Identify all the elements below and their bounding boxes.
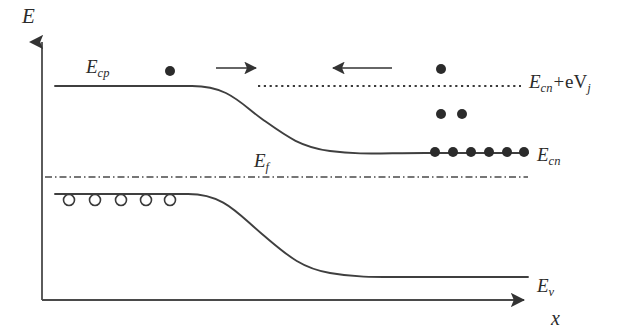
y-axis-label: E <box>22 6 35 27</box>
conduction-band-n-label: Ecn <box>537 145 561 167</box>
electron-dot <box>457 109 467 119</box>
x-axis-label: x <box>551 308 560 328</box>
bias-reference-label: Ecn+eVj <box>529 72 591 94</box>
band-diagram-figure: E Ecp Ecn+eVj Ef Ecn Ev x <box>0 0 635 336</box>
valence-band-label: Ev <box>537 276 554 298</box>
fermi-level-label: Ef <box>254 151 269 173</box>
electron-dot <box>519 147 529 157</box>
electron-dot <box>430 147 440 157</box>
hole-carriers <box>64 195 176 206</box>
conduction-band-p-label: Ecp <box>86 57 110 79</box>
hole-circle <box>90 195 101 206</box>
hole-circle <box>165 195 176 206</box>
valence-band-curve <box>55 194 528 277</box>
electron-dot <box>436 109 446 119</box>
conduction-band-curve <box>55 86 528 154</box>
electron-dot <box>466 147 476 157</box>
electron-dot <box>436 64 446 74</box>
electron-dot <box>165 66 175 76</box>
hole-circle <box>141 195 152 206</box>
hole-circle <box>64 195 75 206</box>
hole-circle <box>116 195 127 206</box>
electron-dot <box>448 147 458 157</box>
axis-group <box>42 42 524 300</box>
electron-dot <box>502 147 512 157</box>
electron-carriers <box>165 64 529 157</box>
electron-dot <box>484 147 494 157</box>
